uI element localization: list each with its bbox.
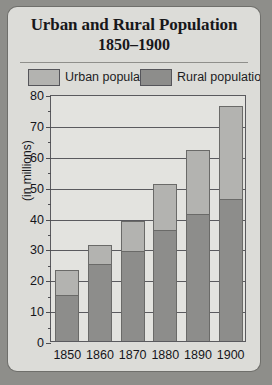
bar-segment-urban[interactable] [186,150,210,215]
bar-group[interactable] [88,94,112,341]
x-axis-tick-label: 1850 [53,348,81,362]
page-title: Urban and Rural Population 1850–1900 [8,15,260,54]
y-axis-tick-label: 30 [30,243,44,257]
y-axis-minor-tick [48,142,51,143]
y-axis-minor-tick [48,328,51,329]
y-axis-minor-tick [48,297,51,298]
y-axis-tick [46,250,51,251]
bar-group[interactable] [55,94,79,341]
bar-segment-rural[interactable] [186,214,210,341]
y-axis-tick [46,127,51,128]
legend-item-rural: Rural population [140,67,260,87]
gridline [51,281,245,282]
bar-segment-rural[interactable] [55,295,79,341]
bar-segment-urban[interactable] [219,106,243,199]
y-axis-tick [46,343,51,344]
y-axis-tick [46,158,51,159]
y-axis-tick [46,281,51,282]
x-axis-tick-label: 1900 [217,348,245,362]
title-line-1: Urban and Rural Population [8,15,260,35]
y-axis-tick-label: 70 [30,120,44,134]
y-axis-tick-label: 40 [30,213,44,227]
y-axis-minor-tick [48,266,51,267]
y-axis-minor-tick [48,173,51,174]
y-axis-tick [46,96,51,97]
bar-segment-urban[interactable] [55,270,79,295]
bar-segment-urban[interactable] [121,221,145,252]
bar-group[interactable] [186,94,210,341]
plot-area: 0102030405060708018501860187018801890190… [50,95,246,342]
bar-segment-urban[interactable] [153,184,177,230]
title-line-2: 1850–1900 [8,35,260,54]
y-axis-tick-label: 10 [30,305,44,319]
gridline [51,158,245,159]
x-axis-tick-label: 1890 [184,348,212,362]
legend-swatch-icon-urban [28,69,60,86]
chart-legend: Urban population Rural population [22,67,248,87]
y-axis-tick-label: 0 [37,336,44,350]
y-axis-minor-tick [48,204,51,205]
x-axis-tick-label: 1880 [151,348,179,362]
x-axis-tick-label: 1870 [119,348,147,362]
y-axis-tick-label: 20 [30,274,44,288]
bar-group[interactable] [153,94,177,341]
gridline [51,220,245,221]
bar-segment-urban[interactable] [88,245,112,264]
y-axis-tick-label: 50 [30,182,44,196]
y-axis-minor-tick [48,111,51,112]
y-axis-tick [46,189,51,190]
gridline [51,127,245,128]
gridline [51,312,245,313]
y-axis-tick [46,312,51,313]
bar-group[interactable] [121,94,145,341]
y-axis-tick-label: 60 [30,151,44,165]
legend-label-rural: Rural population [177,70,260,84]
bar-group[interactable] [219,94,243,341]
image-frame: Urban and Rural Population 1850–1900 Urb… [0,0,272,385]
gridline [51,189,245,190]
bar-segment-rural[interactable] [88,264,112,341]
x-axis-tick-label: 1860 [86,348,114,362]
bar-segment-rural[interactable] [153,230,177,341]
chart-card: Urban and Rural Population 1850–1900 Urb… [8,7,260,371]
y-axis-minor-tick [48,235,51,236]
legend-swatch-icon-rural [140,69,172,86]
y-axis-tick-label: 80 [30,89,44,103]
bar-segment-rural[interactable] [121,251,145,341]
bar-segment-rural[interactable] [219,199,243,341]
gridline [51,250,245,251]
title-divider [20,62,248,63]
y-axis-tick [46,220,51,221]
